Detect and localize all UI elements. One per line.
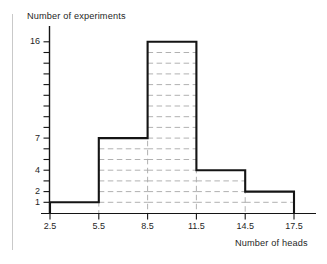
y-tick-label: 1: [22, 198, 40, 207]
x-tick-label: 14.5: [230, 222, 260, 231]
y-tick-label: 16: [22, 37, 40, 46]
histogram-outline: [50, 42, 294, 213]
x-tick-label: 8.5: [133, 222, 163, 231]
x-tick-label: 5.5: [84, 222, 114, 231]
x-tick-label: 2.5: [35, 222, 65, 231]
y-axis-tick-marks: [44, 42, 50, 203]
y-tick-label: 7: [22, 134, 40, 143]
y-tick-label: 4: [22, 166, 40, 175]
x-tick-label: 11.5: [181, 222, 211, 231]
histogram-figure: Number of experiments Number of heads 16…: [0, 0, 327, 264]
axis-lines: [41, 26, 316, 214]
x-tick-label: 17.5: [279, 222, 309, 231]
y-tick-label: 2: [22, 187, 40, 196]
vertical-gridlines: [99, 42, 245, 213]
x-axis-tick-marks: [50, 214, 294, 220]
